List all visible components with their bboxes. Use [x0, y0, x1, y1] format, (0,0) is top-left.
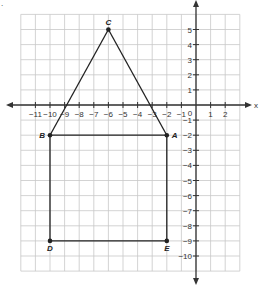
x-tick-label: −5: [118, 110, 128, 119]
x-axis-label: x: [254, 101, 258, 110]
y-axis-down-arrow-icon: [193, 278, 199, 285]
point-label-C: C: [106, 18, 112, 27]
point-label-A: A: [171, 131, 178, 140]
y-tick-label: 1: [188, 86, 193, 95]
y-tick-label: −6: [183, 192, 193, 201]
y-axis-up-arrow-icon: [193, 0, 199, 7]
point-label-E: E: [164, 244, 170, 253]
y-tick-label: −5: [183, 177, 193, 186]
y-tick-label: −1: [183, 116, 193, 125]
y-tick-label: −9: [183, 237, 193, 246]
x-tick-label: 1: [208, 110, 213, 119]
x-tick-label: 2: [223, 110, 228, 119]
y-tick-label: −10: [178, 252, 192, 261]
x-tick-label: −6: [104, 110, 114, 119]
point-A: [165, 133, 170, 138]
y-tick-label: 2: [188, 71, 193, 80]
x-axis-left-arrow-icon: [6, 102, 13, 108]
point-C: [106, 27, 111, 32]
point-E: [165, 239, 170, 244]
x-tick-label: −7: [89, 110, 99, 119]
corner-mark: .: [1, 0, 3, 8]
y-tick-label: −7: [183, 207, 193, 216]
y-tick-label: −3: [183, 146, 193, 155]
coordinate-plane: .x−11−10−9−8−7−6−5−4−3−2−112054321−1−2−3…: [0, 0, 260, 288]
point-D: [48, 239, 53, 244]
x-tick-label: −11: [29, 110, 43, 119]
y-tick-label: −4: [183, 161, 193, 170]
point-B: [48, 133, 53, 138]
x-axis-right-arrow-icon: [245, 102, 252, 108]
point-label-D: D: [47, 244, 53, 253]
y-tick-label: −2: [183, 131, 193, 140]
x-tick-label: −4: [133, 110, 143, 119]
x-tick-label: −10: [43, 110, 57, 119]
y-tick-label: 3: [188, 56, 193, 65]
y-tick-label: 4: [188, 41, 193, 50]
x-tick-label: −2: [162, 110, 172, 119]
point-label-B: B: [39, 131, 45, 140]
x-tick-label: −8: [75, 110, 85, 119]
y-tick-label: −8: [183, 222, 193, 231]
y-tick-label: 5: [188, 26, 193, 35]
